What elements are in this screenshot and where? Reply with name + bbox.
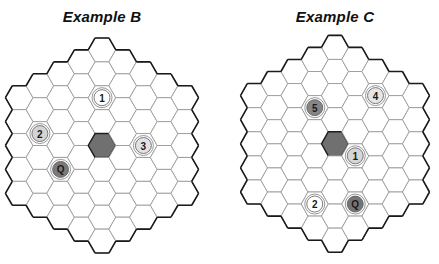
piece-label: 1 (352, 151, 358, 162)
hex-boards-canvas: 123Q 5412Q (0, 0, 439, 264)
piece-1[interactable]: 1 (92, 88, 112, 108)
piece-label: 4 (373, 91, 379, 102)
hex-grid (5, 38, 198, 253)
piece-label: 1 (99, 93, 105, 104)
piece-label: 5 (312, 103, 318, 114)
piece-1[interactable]: 1 (345, 146, 365, 166)
piece-5[interactable]: 5 (305, 98, 325, 118)
example-c-hex-board: 5412Q (241, 35, 430, 252)
piece-label: 3 (141, 141, 147, 152)
piece-q[interactable]: Q (345, 194, 365, 214)
example-b-hex-board: 123Q (5, 38, 198, 253)
piece-q[interactable]: Q (51, 159, 71, 179)
piece-3[interactable]: 3 (133, 136, 153, 156)
piece-4[interactable]: 4 (366, 86, 386, 106)
hex-grid (241, 35, 430, 252)
piece-label: Q (57, 164, 65, 175)
piece-label: 2 (37, 129, 43, 140)
piece-label: Q (351, 199, 359, 210)
piece-2[interactable]: 2 (305, 194, 325, 214)
piece-label: 2 (312, 199, 318, 210)
piece-2[interactable]: 2 (30, 124, 50, 144)
